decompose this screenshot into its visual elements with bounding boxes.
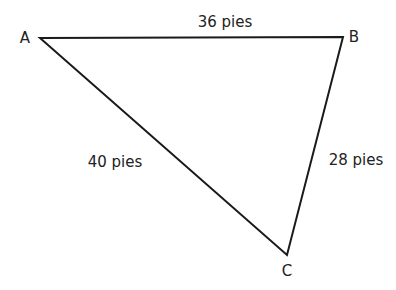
diagram-svg: A B C 36 pies 40 pies 28 pies [0, 0, 396, 290]
triangle-diagram: A B C 36 pies 40 pies 28 pies [0, 0, 396, 290]
side-label-ab: 36 pies [198, 13, 253, 31]
vertex-label-a: A [20, 29, 31, 47]
vertex-label-c: C [282, 262, 292, 280]
side-label-bc: 28 pies [329, 151, 384, 169]
triangle-abc [40, 37, 343, 255]
side-label-ac: 40 pies [88, 153, 143, 171]
vertex-label-b: B [349, 28, 359, 46]
